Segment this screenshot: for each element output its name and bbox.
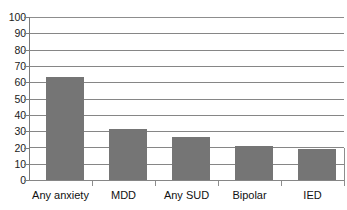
gridline-80 [29,50,344,51]
y-tick-label: 40 [2,110,26,120]
x-axis-line [29,180,345,181]
x-label-mdd: MDD [92,188,155,202]
x-tick-mark [281,181,282,186]
x-label-any-anxiety: Any anxiety [29,188,92,202]
y-tick-label: 50 [2,94,26,104]
gridline-70 [29,66,344,67]
x-axis-labels: Any anxiety MDD Any SUD Bipolar IED [29,188,345,208]
bar-any-anxiety [46,77,84,180]
x-label-ied: IED [281,188,344,202]
x-tick-mark [92,181,93,186]
y-tick-label: 10 [2,159,26,169]
x-tick-mark [218,181,219,186]
y-axis-labels: 100 90 80 70 60 50 40 30 20 10 0 [0,0,26,210]
x-label-any-sud: Any SUD [155,188,218,202]
y-tick-label: 30 [2,126,26,136]
y-axis-line [29,17,30,181]
bar-any-sud [172,137,210,180]
bar-ied [298,149,336,180]
right-axis-stub [344,148,345,181]
y-tick-label: 100 [2,12,26,22]
cropped-title-sliver [0,0,347,4]
y-tick-label: 70 [2,61,26,71]
bar-mdd [109,129,147,180]
x-tick-mark [344,181,345,186]
bar-bipolar [235,146,273,180]
gridline-100 [29,17,344,18]
y-tick-label: 60 [2,77,26,87]
y-tick-label: 80 [2,45,26,55]
gridline-90 [29,33,344,34]
plot-area [29,17,344,180]
y-tick-label: 20 [2,143,26,153]
x-label-bipolar: Bipolar [218,188,281,202]
bar-chart: 100 90 80 70 60 50 40 30 20 10 0 [0,0,347,210]
x-tick-mark [155,181,156,186]
y-tick-label: 0 [2,175,26,185]
y-tick-label: 90 [2,28,26,38]
